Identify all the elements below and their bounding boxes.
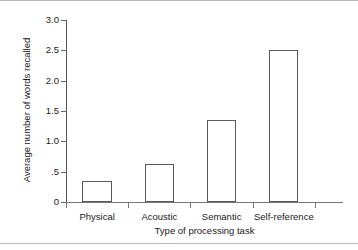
y-tick-mark <box>61 50 67 51</box>
x-tick-mark <box>190 202 191 208</box>
y-tick-label: 1.5 <box>46 105 59 116</box>
y-tick-mark <box>61 111 67 112</box>
bar <box>145 164 174 202</box>
chart-figure: Average number of words recalled 3.02.52… <box>0 0 358 250</box>
plot-area: 3.02.52.01.51.0.50 PhysicalAcousticSeman… <box>66 18 343 202</box>
page-rule-bottom <box>0 243 358 244</box>
bar <box>269 50 298 202</box>
bar <box>207 120 236 202</box>
y-tick-label: 2.5 <box>46 44 59 55</box>
bar <box>82 181 111 202</box>
x-category-label: Self-reference <box>228 211 340 223</box>
y-tick-mark <box>61 172 67 173</box>
x-tick-mark <box>315 202 316 208</box>
y-tick-label: 2.0 <box>46 75 59 86</box>
y-tick-mark <box>61 81 67 82</box>
x-axis-title: Type of processing task <box>66 225 343 237</box>
y-tick-label: 0 <box>54 196 59 207</box>
y-tick-label: 3.0 <box>46 14 59 25</box>
x-tick-mark <box>253 202 254 208</box>
page-rule-top <box>0 0 358 1</box>
x-axis-line <box>66 202 343 203</box>
y-tick-mark <box>61 141 67 142</box>
x-tick-mark <box>128 202 129 208</box>
y-axis-title: Average number of words recalled <box>20 18 34 202</box>
x-tick-mark <box>66 202 67 208</box>
y-tick-label: .5 <box>51 166 59 177</box>
y-tick-mark <box>61 20 67 21</box>
y-tick-label: 1.0 <box>46 135 59 146</box>
